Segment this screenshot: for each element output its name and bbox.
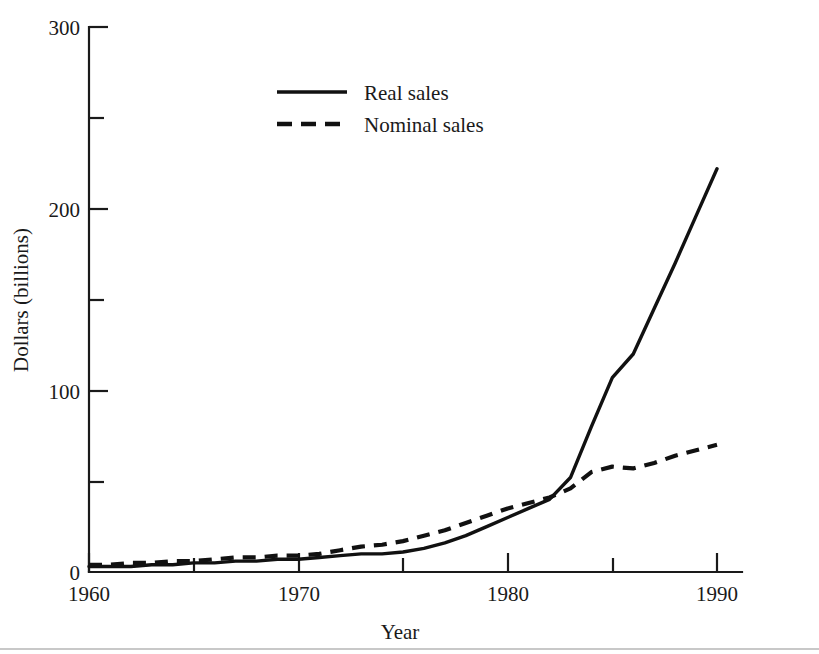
x-tick-label-1990: 1990: [696, 582, 738, 606]
y-tick-label-100: 100: [49, 380, 81, 404]
line-chart: 300 200 100 0 1960 1970 1980 1990 Dollar…: [0, 0, 819, 654]
y-tick-label-200: 200: [49, 198, 81, 222]
series-line-nominal-sales: [89, 445, 717, 565]
x-tick-label-1970: 1970: [278, 582, 320, 606]
y-axis-title: Dollars (billions): [9, 228, 33, 372]
legend-label-nominal-sales: Nominal sales: [364, 113, 484, 137]
y-tick-marks: [89, 27, 108, 482]
y-tick-labels: 300 200 100 0: [49, 16, 81, 585]
figure-container: 300 200 100 0 1960 1970 1980 1990 Dollar…: [0, 0, 819, 654]
legend-label-real-sales: Real sales: [364, 81, 449, 105]
series-line-real-sales: [89, 169, 717, 567]
legend: Real sales Nominal sales: [277, 81, 484, 137]
x-axis-title: Year: [381, 620, 420, 644]
x-tick-label-1960: 1960: [68, 582, 110, 606]
x-tick-labels: 1960 1970 1980 1990: [68, 582, 738, 606]
axis-group: [89, 27, 742, 572]
y-tick-label-300: 300: [49, 16, 81, 40]
x-tick-label-1980: 1980: [487, 582, 529, 606]
